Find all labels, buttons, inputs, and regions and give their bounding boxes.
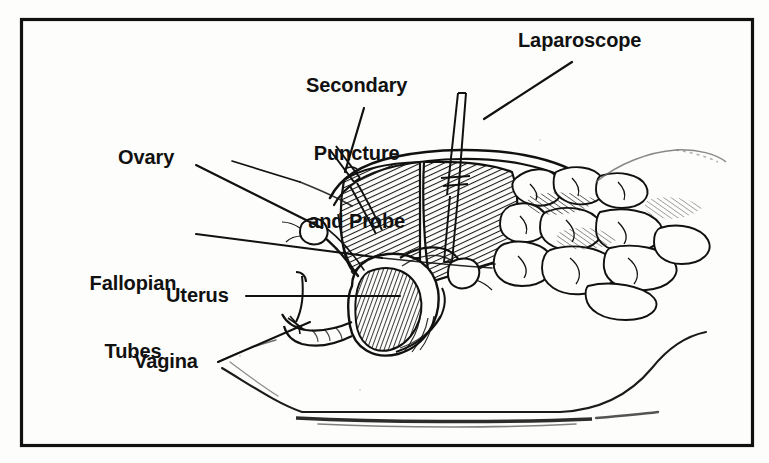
label-laparoscope: Laparoscope	[518, 29, 641, 52]
label-ovary: Ovary	[118, 146, 174, 169]
label-uterus: Uterus	[166, 284, 229, 307]
label-secondary-line-2: Puncture	[306, 142, 407, 165]
label-vagina: Vagina	[134, 350, 198, 373]
label-fallopian-tubes: Fallopian Tubes	[74, 226, 192, 408]
label-secondary-line-3: and Probe	[306, 210, 407, 233]
label-secondary-puncture-and-probe: Secondary Puncture and Probe	[306, 28, 407, 279]
label-secondary-line-1: Secondary	[306, 74, 407, 97]
figure-container: Ovary Secondary Puncture and Probe Lapar…	[0, 0, 769, 463]
